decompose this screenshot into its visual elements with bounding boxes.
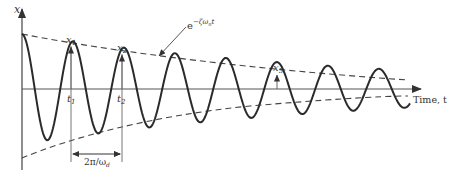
period-arrow-right [114,151,121,157]
peak-label-x5: x5 [273,62,284,75]
damped-oscillation-diagram: x x1 x2 x5 e−ζωnt t1 t2 2π/ωd Time, t [0,0,461,177]
period-label: 2π/ωd [84,157,110,168]
envelope-leader [159,27,186,56]
envelope-label: e−ζωnt [187,18,215,31]
y-axis-label: x [14,3,21,16]
period-arrow-left [72,151,79,157]
time-axis-label: Time, t [413,94,447,105]
time-label-t2: t2 [117,93,126,106]
oscillation-curve [22,34,410,140]
lower-envelope [22,96,408,158]
peak-label-x1: x1 [66,34,76,47]
